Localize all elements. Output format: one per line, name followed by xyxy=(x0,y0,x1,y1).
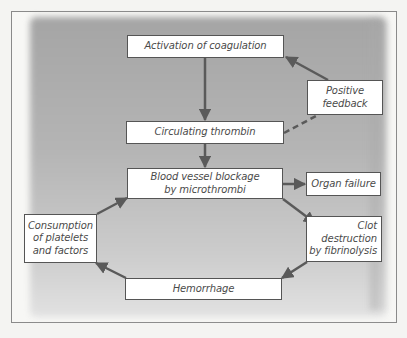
node-organ-failure: Organ failure xyxy=(306,172,381,196)
arrow-feedback-to-activation xyxy=(286,57,328,80)
node-hemorrhage: Hemorrhage xyxy=(125,278,282,300)
node-label: Blood vessel blockage by microthrombi xyxy=(150,171,259,196)
node-label: Positive feedback xyxy=(322,85,367,110)
node-label: Clot destruction by fibrinolysis xyxy=(309,220,377,258)
arrow-consumption-to-blockage xyxy=(97,198,127,214)
node-positive-feedback: Positive feedback xyxy=(307,80,383,115)
node-activation-of-coagulation: Activation of coagulation xyxy=(127,35,284,58)
node-clot-destruction: Clot destruction by fibrinolysis xyxy=(306,216,382,262)
arrow-hemorrhage-to-consumption xyxy=(96,263,126,278)
arrow-clot-destruction-to-hemorrhage xyxy=(282,262,307,278)
node-blood-vessel-blockage: Blood vessel blockage by microthrombi xyxy=(127,168,283,199)
node-consumption: Consumption of platelets and factors xyxy=(24,214,97,263)
dashed-thrombin-to-feedback xyxy=(284,115,318,133)
node-label: Activation of coagulation xyxy=(144,40,266,53)
node-label: Organ failure xyxy=(311,178,375,191)
node-label: Circulating thrombin xyxy=(155,126,256,139)
node-circulating-thrombin: Circulating thrombin xyxy=(126,121,284,144)
node-label: Consumption of platelets and factors xyxy=(28,220,93,258)
node-label: Hemorrhage xyxy=(173,283,235,296)
